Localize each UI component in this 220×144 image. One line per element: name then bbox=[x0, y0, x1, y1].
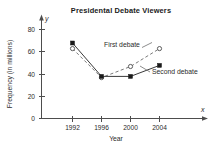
x-axis-symbol: x bbox=[200, 106, 205, 113]
x-tick-label-1996: 1996 bbox=[94, 124, 109, 131]
series-line-second-debate bbox=[73, 43, 160, 76]
series-line-first-debate bbox=[73, 49, 160, 78]
y-tick-label-80: 80 bbox=[28, 26, 36, 33]
y-axis-symbol: y bbox=[44, 15, 49, 23]
y-tick-label-20: 20 bbox=[28, 93, 36, 100]
x-axis-tick-labels: 1992 1996 2000 2004 bbox=[65, 124, 167, 131]
data-point-first-2004 bbox=[157, 47, 161, 51]
x-tick-label-2000: 2000 bbox=[123, 124, 138, 131]
data-point-first-1992 bbox=[70, 47, 74, 51]
y-tick-label-40: 40 bbox=[28, 71, 36, 78]
presidential-debate-viewers-chart: Presidental Debate Viewers y x 0 20 40 6… bbox=[0, 0, 220, 144]
data-point-second-1992 bbox=[71, 41, 75, 45]
x-axis-arrowhead bbox=[202, 116, 208, 121]
annotation-first-debate: First debate bbox=[104, 41, 140, 48]
x-tick-label-2004: 2004 bbox=[152, 124, 167, 131]
x-axis-label: Year bbox=[109, 135, 123, 142]
data-point-second-1996 bbox=[100, 74, 104, 78]
y-axis-tick-labels: 0 20 40 60 80 bbox=[28, 26, 36, 122]
chart-screenshot: Presidental Debate Viewers y x 0 20 40 6… bbox=[0, 0, 220, 144]
y-axis-arrowhead bbox=[39, 15, 44, 21]
chart-title: Presidental Debate Viewers bbox=[71, 6, 171, 15]
y-axis-label: Frequency (in millions) bbox=[6, 40, 14, 108]
leader-line-first-debate bbox=[142, 43, 152, 48]
annotation-second-debate: Second debate bbox=[152, 68, 198, 75]
series-markers-first-debate bbox=[70, 47, 161, 80]
data-point-second-2004 bbox=[158, 63, 162, 67]
y-tick-label-0: 0 bbox=[31, 115, 35, 122]
data-point-second-2000 bbox=[129, 74, 133, 78]
data-point-first-2000 bbox=[128, 64, 132, 68]
x-tick-label-1992: 1992 bbox=[65, 124, 80, 131]
y-tick-label-60: 60 bbox=[28, 48, 36, 55]
